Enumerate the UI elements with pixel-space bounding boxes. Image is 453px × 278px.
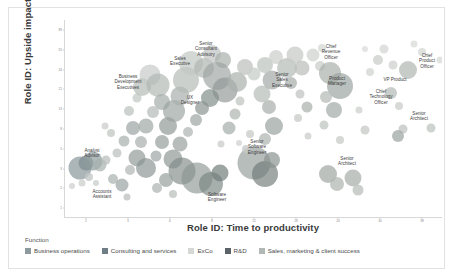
- bubble-point[interactable]: [151, 151, 162, 162]
- bubble-point[interactable]: [307, 49, 320, 62]
- bubble-point[interactable]: [264, 152, 280, 168]
- bubble-point[interactable]: [113, 149, 122, 158]
- y-tick-mark: [63, 148, 65, 149]
- bubble-point[interactable]: [361, 126, 370, 135]
- bubble-point[interactable]: [223, 122, 236, 135]
- bubble-point[interactable]: [79, 180, 86, 187]
- bubble-point[interactable]: [93, 180, 99, 186]
- bubble-point[interactable]: [102, 156, 111, 165]
- bubble-point[interactable]: [230, 109, 241, 120]
- bubble-point[interactable]: [135, 136, 147, 148]
- bubble-point[interactable]: [356, 107, 363, 114]
- bubble-point[interactable]: [218, 141, 225, 148]
- y-tick-label: 21: [58, 87, 62, 91]
- bubble-point[interactable]: [320, 91, 332, 103]
- bubble-point[interactable]: [366, 68, 374, 76]
- bubble-layer: [65, 20, 442, 217]
- plot-area[interactable]: Senior Consultant AdvisorySales Executiv…: [64, 20, 442, 218]
- bubble-point[interactable]: [236, 97, 245, 106]
- bubble-point[interactable]: [139, 119, 154, 134]
- bubble-point[interactable]: [147, 106, 159, 118]
- y-tick-mark: [63, 69, 65, 70]
- y-tick-label: 2: [60, 186, 62, 190]
- bubble-point[interactable]: [385, 87, 397, 99]
- chart-card: Role ID: Upside impact Role ID: Time to …: [8, 7, 445, 269]
- bubble-point[interactable]: [294, 114, 302, 122]
- y-tick-label: 89: [58, 28, 62, 32]
- bubble-point[interactable]: [183, 127, 193, 137]
- bubble-point[interactable]: [330, 177, 344, 191]
- y-tick-label: 3: [60, 167, 62, 171]
- legend-item-label: Business operations: [34, 247, 90, 254]
- bubble-point[interactable]: [124, 194, 131, 201]
- legend-item-label: R&D: [234, 247, 247, 254]
- bubble-point[interactable]: [295, 61, 310, 76]
- bubble-point[interactable]: [305, 133, 312, 140]
- bubble-point[interactable]: [212, 165, 229, 182]
- y-tick-mark: [63, 89, 65, 90]
- legend-item[interactable]: Consulting and services: [102, 247, 177, 254]
- x-tick-label: 8: [211, 219, 213, 223]
- legend-item[interactable]: Business operations: [25, 247, 90, 254]
- bubble-point[interactable]: [265, 117, 283, 135]
- y-tick-mark: [63, 49, 65, 50]
- x-tick-label: 30: [378, 219, 382, 223]
- bubble-point[interactable]: [155, 135, 169, 149]
- y-tick-label: 5: [60, 147, 62, 151]
- bubble-point[interactable]: [246, 130, 254, 138]
- y-tick-mark: [63, 208, 65, 209]
- bubble-point[interactable]: [427, 124, 436, 133]
- bubble-point[interactable]: [318, 44, 326, 52]
- x-tick-mark: [86, 217, 87, 219]
- bubble-point[interactable]: [418, 48, 426, 56]
- bubble-point[interactable]: [69, 183, 75, 189]
- legend-swatch-icon: [102, 248, 108, 254]
- bubble-point[interactable]: [353, 185, 364, 196]
- bubble-point[interactable]: [411, 41, 418, 48]
- bubble-point[interactable]: [373, 55, 383, 65]
- bubble-point[interactable]: [147, 74, 170, 97]
- bubble-point[interactable]: [326, 102, 342, 118]
- bubble-point[interactable]: [395, 102, 403, 110]
- bubble-point[interactable]: [119, 136, 130, 147]
- bubble-point[interactable]: [107, 129, 115, 137]
- bubble-point[interactable]: [227, 72, 247, 92]
- bubble-point[interactable]: [195, 101, 209, 115]
- x-tick-mark: [170, 217, 171, 219]
- bubble-point[interactable]: [296, 90, 305, 99]
- bubble-point[interactable]: [85, 173, 93, 181]
- bubble-point[interactable]: [389, 61, 398, 70]
- bubble-point[interactable]: [336, 136, 344, 144]
- bubble-point[interactable]: [124, 106, 134, 116]
- bubble-point[interactable]: [236, 140, 242, 146]
- legend-item-label: ExCo: [197, 247, 212, 254]
- y-tick-mark: [63, 29, 65, 30]
- bubble-point[interactable]: [380, 45, 389, 54]
- legend-swatch-icon: [259, 248, 265, 254]
- bubble-point[interactable]: [437, 57, 443, 64]
- bubble-point[interactable]: [302, 102, 313, 113]
- legend-item[interactable]: ExCo: [188, 247, 212, 254]
- legend-swatch-icon: [25, 248, 31, 254]
- bubble-point[interactable]: [362, 46, 368, 52]
- legend-item[interactable]: R&D: [225, 247, 247, 254]
- bubble-point[interactable]: [392, 130, 404, 142]
- bubble-point[interactable]: [259, 133, 271, 145]
- bubble-point[interactable]: [285, 77, 297, 89]
- x-tick-mark: [296, 217, 297, 219]
- y-tick-mark: [63, 109, 65, 110]
- bubble-point[interactable]: [102, 123, 109, 130]
- x-tick-label: 38: [420, 219, 424, 223]
- bubble-point[interactable]: [242, 145, 250, 153]
- bubble-point[interactable]: [190, 114, 202, 126]
- bubble-point[interactable]: [399, 61, 417, 79]
- x-tick-mark: [380, 217, 381, 219]
- bubble-point[interactable]: [116, 179, 129, 192]
- bubble-point[interactable]: [125, 165, 135, 175]
- x-tick-mark: [128, 217, 129, 219]
- legend-items: Business operationsConsulting and servic…: [25, 247, 445, 254]
- bubble-point[interactable]: [169, 190, 177, 198]
- bubble-point[interactable]: [320, 121, 329, 130]
- legend-item[interactable]: Sales, marketing & client success: [259, 247, 360, 254]
- bubble-point[interactable]: [152, 183, 162, 193]
